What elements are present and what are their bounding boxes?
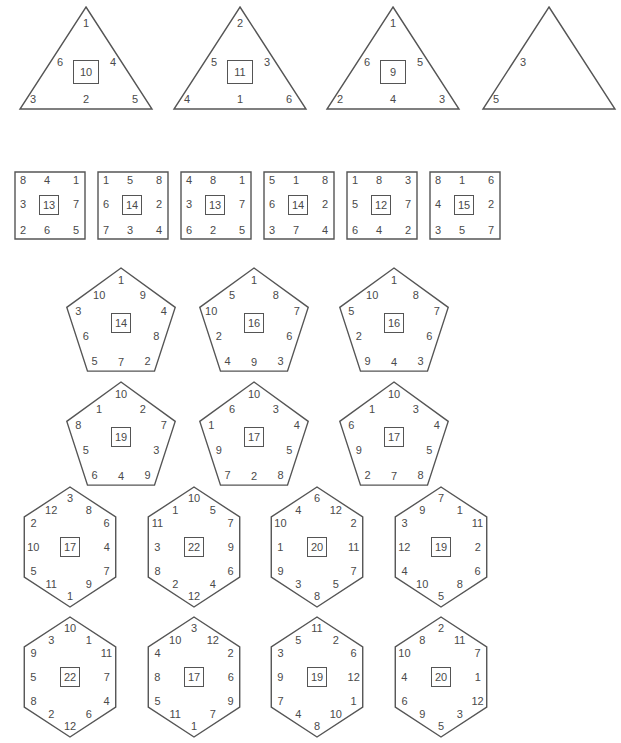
- puzzle-number: 2: [48, 708, 54, 720]
- puzzle-number: 5: [132, 93, 138, 105]
- puzzle-number: 6: [474, 565, 480, 577]
- puzzle-number: 4: [161, 305, 167, 317]
- puzzle-number: 10: [27, 541, 39, 553]
- puzzle-number: 7: [438, 492, 444, 504]
- puzzle-number: 7: [73, 198, 79, 210]
- puzzle-number: 6: [228, 671, 234, 683]
- center-sum-box: 19: [111, 427, 131, 447]
- puzzle-number: 8: [435, 174, 441, 186]
- puzzle-number: 6: [269, 198, 275, 210]
- puzzle-number: 1: [457, 504, 463, 516]
- puzzle-number: 9: [419, 708, 425, 720]
- puzzle-number: 8: [210, 174, 216, 186]
- puzzle-number: 2: [237, 17, 243, 29]
- center-sum-box: 14: [122, 195, 142, 215]
- puzzle-number: 2: [83, 93, 89, 105]
- center-sum-box: 17: [244, 427, 264, 447]
- puzzle-number: 4: [118, 470, 124, 482]
- puzzle-number: 3: [20, 198, 26, 210]
- center-sum-box: 9: [380, 60, 406, 84]
- puzzle-number: 2: [356, 330, 362, 342]
- puzzle-number: 8: [154, 671, 160, 683]
- puzzle-number: 9: [216, 444, 222, 456]
- puzzle-number: 6: [348, 419, 354, 431]
- center-sum-box: 11: [227, 60, 253, 84]
- puzzle-number: 1: [83, 17, 89, 29]
- puzzle-number: 12: [348, 671, 360, 683]
- puzzle-number: 2: [210, 224, 216, 236]
- puzzle-number: 7: [488, 224, 494, 236]
- puzzle-number: 2: [322, 198, 328, 210]
- hexagon-puzzle: 31226971115841017: [142, 617, 248, 739]
- puzzle-number: 4: [401, 565, 407, 577]
- puzzle-number: 3: [273, 403, 279, 415]
- puzzle-number: 6: [229, 403, 235, 415]
- center-sum-box: 16: [244, 313, 264, 333]
- puzzle-number: 3: [277, 355, 283, 367]
- puzzle-number: 5: [426, 444, 432, 456]
- puzzle-number: 2: [144, 355, 150, 367]
- puzzle-number: 3: [30, 93, 36, 105]
- puzzle-number: 8: [457, 578, 463, 590]
- puzzle-number: 12: [471, 695, 483, 707]
- puzzle-number: 5: [73, 224, 79, 236]
- puzzle-number: 1: [67, 590, 73, 602]
- hexagon-puzzle: 38647911151021217: [18, 487, 124, 609]
- puzzle-number: 3: [405, 174, 411, 186]
- pentagon-puzzle: 1034582791617: [198, 382, 310, 488]
- puzzle-number: 8: [153, 330, 159, 342]
- puzzle-number: 2: [488, 198, 494, 210]
- hexagon-puzzle: 71112685104123919: [389, 487, 495, 609]
- square-puzzle: 1586273414: [98, 172, 169, 240]
- puzzle-number: 5: [83, 444, 89, 456]
- puzzle-number: 5: [30, 671, 36, 683]
- puzzle-number: 2: [475, 541, 481, 553]
- puzzle-number: 6: [103, 517, 109, 529]
- triangle-outline: [483, 5, 621, 110]
- puzzle-number: 1: [251, 274, 257, 286]
- puzzle-number: 9: [356, 444, 362, 456]
- puzzle-number: 12: [188, 590, 200, 602]
- puzzle-number: 11: [454, 634, 465, 646]
- hexagon-puzzle: 61221175839110420: [265, 487, 371, 609]
- puzzle-number: 1: [352, 174, 358, 186]
- puzzle-number: 3: [401, 517, 407, 529]
- puzzle-number: 5: [91, 355, 97, 367]
- puzzle-number: 4: [154, 647, 160, 659]
- puzzle-number: 5: [269, 174, 275, 186]
- puzzle-number: 6: [286, 93, 292, 105]
- square-puzzle: 5186237414: [264, 172, 335, 240]
- puzzle-number: 1: [118, 274, 124, 286]
- puzzle-number: 4: [110, 56, 116, 68]
- puzzle-number: 6: [314, 492, 320, 504]
- puzzle-number: 10: [93, 289, 105, 301]
- puzzle-number: 1: [475, 671, 481, 683]
- puzzle-number: 7: [405, 198, 411, 210]
- puzzle-number: 6: [186, 224, 192, 236]
- puzzle-number: 10: [205, 305, 217, 317]
- puzzle-number: 1: [73, 174, 79, 186]
- puzzle-number: 4: [376, 224, 382, 236]
- puzzle-number: 10: [274, 517, 286, 529]
- puzzle-number: 12: [330, 504, 342, 516]
- puzzle-number: 3: [269, 224, 275, 236]
- puzzle-number: 5: [295, 634, 301, 646]
- puzzle-number: 10: [366, 289, 378, 301]
- puzzle-number: 9: [228, 541, 234, 553]
- square-puzzle: 8413726513: [15, 172, 86, 240]
- puzzle-number: 7: [239, 198, 245, 210]
- puzzle-number: 4: [224, 355, 230, 367]
- puzzle-number: 5: [459, 224, 465, 236]
- puzzle-number: 8: [413, 289, 419, 301]
- puzzle-number: 3: [153, 444, 159, 456]
- triangle-puzzle: 25341611: [174, 5, 314, 110]
- center-sum-box: 20: [307, 537, 327, 557]
- puzzle-number: 4: [434, 419, 440, 431]
- puzzle-number: 7: [474, 647, 480, 659]
- puzzle-number: 6: [44, 224, 50, 236]
- puzzle-number: 7: [227, 517, 233, 529]
- puzzle-number: 2: [140, 403, 146, 415]
- puzzle-number: 6: [83, 330, 89, 342]
- puzzle-number: 2: [337, 93, 343, 105]
- square-puzzle: 4813762513: [181, 172, 252, 240]
